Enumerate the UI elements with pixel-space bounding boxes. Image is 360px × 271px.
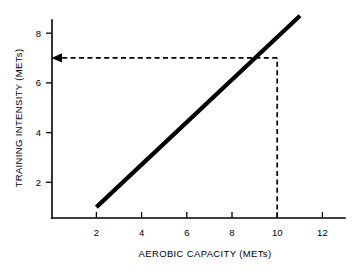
chart-background [0, 0, 360, 271]
x-tick-label-4: 4 [139, 227, 144, 238]
y-tick-label-4: 4 [36, 127, 41, 138]
chart-figure: 2 4 6 8 2 4 6 8 10 12 [0, 0, 360, 271]
x-tick-label-8: 8 [229, 227, 234, 238]
x-tick-label-10: 10 [272, 227, 283, 238]
x-tick-label-6: 6 [184, 227, 189, 238]
x-axis-title: AEROBIC CAPACITY (METs) [139, 248, 272, 259]
x-tick-label-12: 12 [317, 227, 328, 238]
y-tick-label-8: 8 [36, 28, 41, 39]
x-tick-label-2: 2 [94, 227, 99, 238]
y-tick-label-2: 2 [36, 177, 41, 188]
y-axis-title: TRAINING INTENSITY (METs) [13, 49, 24, 188]
y-tick-label-6: 6 [36, 77, 41, 88]
chart-canvas: 2 4 6 8 2 4 6 8 10 12 [0, 0, 360, 271]
